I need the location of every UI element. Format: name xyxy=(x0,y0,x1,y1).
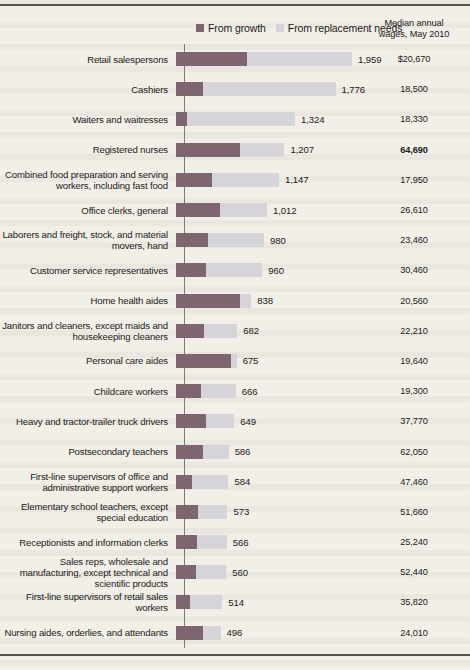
bar-segment-replacement xyxy=(240,294,251,308)
median-wage-value: 62,050 xyxy=(371,447,457,457)
bar-container: 1,32418,330 xyxy=(176,104,470,134)
bar-segment-replacement xyxy=(240,143,284,157)
stacked-bar xyxy=(176,535,227,549)
bar-segment-growth xyxy=(176,535,197,549)
stacked-bar xyxy=(176,173,279,187)
chart-row: First-line supervisors of office and adm… xyxy=(0,467,470,497)
chart-row: Sales reps, wholesale and manufacturing,… xyxy=(0,557,470,587)
chart-row: Nursing aides, orderlies, and attendants… xyxy=(0,618,470,648)
chart-row: Registered nurses1,20764,690 xyxy=(0,135,470,165)
bar-segment-growth xyxy=(176,414,206,428)
median-wage-value: 19,640 xyxy=(371,356,457,366)
legend-swatch-growth-icon xyxy=(196,24,204,32)
bar-segment-replacement xyxy=(220,203,267,217)
category-label: Registered nurses xyxy=(0,144,176,155)
category-label: Postsecondary teachers xyxy=(0,446,176,457)
bar-segment-growth xyxy=(176,173,212,187)
stacked-bar xyxy=(176,263,262,277)
bar-value-label: 838 xyxy=(257,295,273,306)
bar-segment-growth xyxy=(176,324,204,338)
category-label: Office clerks, general xyxy=(0,205,176,216)
median-wage-value: 30,460 xyxy=(371,265,457,275)
bar-segment-growth xyxy=(176,626,203,640)
bar-value-label: 1,776 xyxy=(342,84,366,95)
bar-value-label: 675 xyxy=(243,355,259,366)
median-wage-value: 52,440 xyxy=(371,567,457,577)
bar-segment-replacement xyxy=(203,82,336,96)
category-label: Waiters and waitresses xyxy=(0,114,176,125)
bar-segment-replacement xyxy=(203,626,220,640)
median-wage-value: 37,770 xyxy=(371,416,457,426)
bar-segment-replacement xyxy=(206,263,262,277)
chart-row: Customer service representatives96030,46… xyxy=(0,255,470,285)
bar-segment-replacement xyxy=(201,384,236,398)
bar-segment-growth xyxy=(176,505,198,519)
median-wage-value: 17,950 xyxy=(371,175,457,185)
stacked-bar xyxy=(176,324,237,338)
bar-segment-replacement xyxy=(247,52,352,66)
bar-segment-growth xyxy=(176,354,231,368)
bar-value-label: 1,324 xyxy=(301,114,325,125)
chart-row: Combined food preparation and serving wo… xyxy=(0,165,470,195)
bar-segment-growth xyxy=(176,565,196,579)
category-label: Sales reps, wholesale and manufacturing,… xyxy=(0,556,176,589)
category-label: Retail salespersons xyxy=(0,54,176,65)
bar-segment-replacement xyxy=(231,354,237,368)
chart-row: Receptionists and information clerks5662… xyxy=(0,527,470,557)
bar-container: 51435,820 xyxy=(176,587,470,617)
median-wage-value: 22,210 xyxy=(371,326,457,336)
bar-value-label: 1,207 xyxy=(290,144,314,155)
median-wage-value: 24,010 xyxy=(371,628,457,638)
bar-container: 1,77618,500 xyxy=(176,74,470,104)
chart-sheet: From growth From replacement needs Media… xyxy=(0,0,470,670)
bottom-rule xyxy=(0,654,470,656)
median-wage-value: 20,560 xyxy=(371,296,457,306)
bar-container: 68222,210 xyxy=(176,316,470,346)
bar-segment-growth xyxy=(176,294,240,308)
chart-row: Home health aides83820,560 xyxy=(0,286,470,316)
bar-container: 57351,660 xyxy=(176,497,470,527)
stacked-bar xyxy=(176,203,267,217)
stacked-bar xyxy=(176,445,229,459)
legend-item-growth: From growth xyxy=(196,22,266,34)
stacked-bar xyxy=(176,414,234,428)
bar-segment-replacement xyxy=(204,324,237,338)
bar-value-label: 649 xyxy=(240,416,256,427)
bar-container: 1,14717,950 xyxy=(176,165,470,195)
stacked-bar xyxy=(176,233,264,247)
bar-container: 1,20764,690 xyxy=(176,135,470,165)
bar-container: 56052,440 xyxy=(176,557,470,587)
bar-segment-growth xyxy=(176,475,192,489)
median-wage-value: 18,500 xyxy=(371,84,457,94)
category-label: Combined food preparation and serving wo… xyxy=(0,169,176,191)
stacked-bar xyxy=(176,82,336,96)
legend-label-growth: From growth xyxy=(208,22,266,34)
stacked-bar xyxy=(176,565,226,579)
bar-value-label: 560 xyxy=(232,567,248,578)
bar-value-label: 514 xyxy=(228,597,244,608)
chart-header: From growth From replacement needs Media… xyxy=(0,10,470,44)
stacked-bar xyxy=(176,143,284,157)
bar-segment-replacement xyxy=(206,414,235,428)
bar-value-label: 1,012 xyxy=(273,205,297,216)
bar-container: 56625,240 xyxy=(176,527,470,557)
bar-segment-growth xyxy=(176,143,240,157)
bar-container: 58447,460 xyxy=(176,467,470,497)
category-label: First-line supervisors of office and adm… xyxy=(0,471,176,493)
chart-row: Office clerks, general1,01226,610 xyxy=(0,195,470,225)
bar-segment-growth xyxy=(176,112,187,126)
bar-value-label: 960 xyxy=(268,265,284,276)
bar-container: 83820,560 xyxy=(176,286,470,316)
stacked-bar xyxy=(176,384,236,398)
stacked-bar xyxy=(176,294,251,308)
wage-column-header-line1: Median annual xyxy=(371,18,457,29)
bar-container: 1,959$20,670 xyxy=(176,44,470,74)
bar-value-label: 566 xyxy=(233,537,249,548)
chart-row: Personal care aides67519,640 xyxy=(0,346,470,376)
chart-plot-area: Retail salespersons1,959$20,670Cashiers1… xyxy=(0,44,470,652)
stacked-bar xyxy=(176,52,352,66)
bar-segment-replacement xyxy=(203,445,228,459)
legend-swatch-replacement-icon xyxy=(276,24,284,32)
bar-segment-growth xyxy=(176,384,201,398)
median-wage-value: 35,820 xyxy=(371,597,457,607)
